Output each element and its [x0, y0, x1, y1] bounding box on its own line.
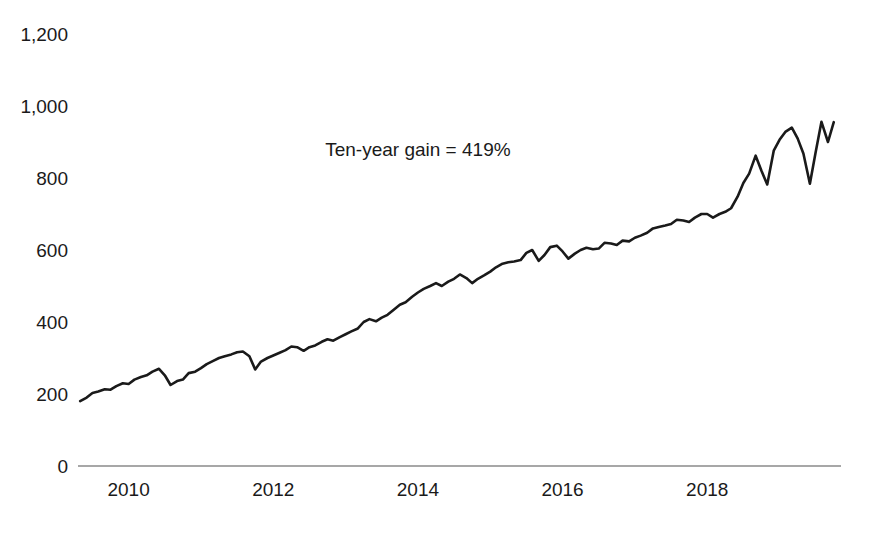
x-axis-tick-label: 2010 [107, 479, 149, 500]
chart-annotation-text: Ten-year gain = 419% [325, 139, 510, 160]
data-line-index [80, 122, 834, 401]
y-axis-tick-label: 400 [36, 312, 68, 333]
chart-container: 02004006008001,0001,200 2010201220142016… [0, 0, 876, 536]
x-axis-tick-label: 2012 [252, 479, 294, 500]
y-axis-tick-label: 1,200 [20, 24, 68, 45]
y-axis-tick-label: 0 [57, 456, 68, 477]
y-axis-tick-labels: 02004006008001,0001,200 [20, 24, 68, 477]
x-axis-tick-label: 2018 [686, 479, 728, 500]
y-axis-tick-label: 800 [36, 168, 68, 189]
line-chart: 02004006008001,0001,200 2010201220142016… [0, 0, 876, 536]
x-axis-tick-label: 2016 [541, 479, 583, 500]
chart-annotations: Ten-year gain = 419% [325, 139, 510, 160]
x-axis-tick-labels: 20102012201420162018 [107, 479, 728, 500]
y-axis-tick-label: 600 [36, 240, 68, 261]
x-axis-tick-label: 2014 [397, 479, 440, 500]
y-axis-tick-label: 1,000 [20, 96, 68, 117]
y-axis-tick-label: 200 [36, 384, 68, 405]
